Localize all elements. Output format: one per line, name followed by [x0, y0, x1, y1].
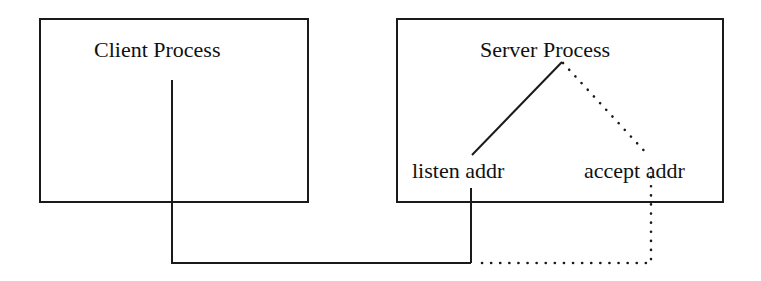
diagram-canvas: Client Process Server Process listen add…	[0, 0, 761, 281]
connection-lines	[0, 0, 761, 281]
server-to-accept-dotted-line	[563, 63, 648, 155]
accept-to-client-dotted-connector	[476, 168, 651, 263]
server-to-listen-line	[472, 62, 562, 155]
client-to-listen-connector	[172, 80, 471, 263]
